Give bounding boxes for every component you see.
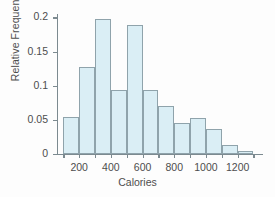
y-tick: 0.05 (53, 120, 57, 121)
histogram-bar (111, 90, 127, 154)
y-tick: 0.15 (53, 52, 57, 53)
histogram-bar (158, 106, 174, 154)
x-tick (63, 154, 64, 158)
y-tick: 0.1 (53, 86, 57, 87)
x-tick (253, 154, 254, 158)
y-tick-label: 0.2 (33, 10, 48, 22)
histogram-bar (79, 67, 95, 154)
y-axis-title: Relative Frequency (9, 0, 23, 97)
x-tick (238, 154, 239, 158)
plot-area: 00.050.10.150.2 20040060080010001200 (57, 14, 263, 155)
histogram-bar (206, 129, 222, 154)
histogram-bar (238, 151, 254, 154)
y-axis-line (57, 14, 58, 155)
y-tick-label: 0.15 (28, 45, 48, 57)
x-tick (174, 154, 175, 158)
y-tick: 0 (53, 154, 57, 155)
histogram-bar (222, 145, 238, 154)
x-tick (190, 154, 191, 158)
x-tick (143, 154, 144, 158)
x-tick (79, 154, 80, 158)
histogram-bar (190, 118, 206, 154)
x-axis-title: Calories (0, 176, 275, 188)
x-tick-label: 200 (70, 161, 88, 173)
histogram-figure: Relative Frequency 00.050.10.150.2 20040… (0, 0, 275, 197)
histogram-bar (174, 123, 190, 154)
x-tick (222, 154, 223, 158)
histogram-bar (95, 19, 111, 154)
histogram-bar (63, 117, 79, 154)
y-tick-label: 0 (42, 147, 48, 159)
x-axis-line (57, 154, 263, 155)
x-tick-label: 800 (165, 161, 183, 173)
x-tick-label: 400 (102, 161, 120, 173)
x-tick (95, 154, 96, 158)
histogram-bar (127, 25, 143, 154)
x-tick (158, 154, 159, 158)
x-tick (206, 154, 207, 158)
histogram-bar (143, 90, 159, 154)
x-tick (127, 154, 128, 158)
y-tick-label: 0.05 (28, 113, 48, 125)
y-tick: 0.2 (53, 17, 57, 18)
x-tick-label: 1200 (226, 161, 249, 173)
x-tick-label: 1000 (194, 161, 217, 173)
x-tick-label: 600 (134, 161, 152, 173)
x-tick (111, 154, 112, 158)
y-tick-label: 0.1 (33, 79, 48, 91)
